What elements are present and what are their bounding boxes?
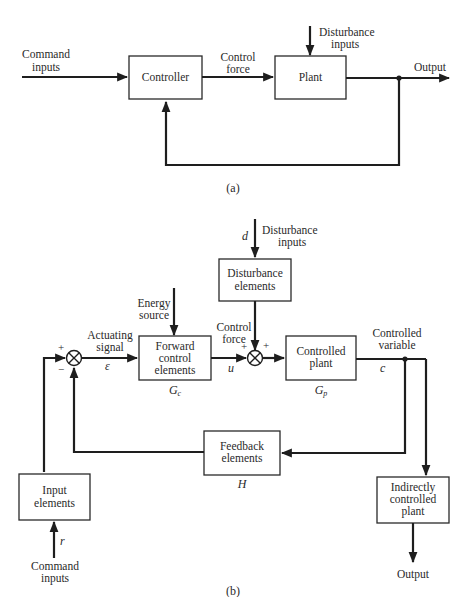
controlled-variable-label-2: variable <box>378 339 415 351</box>
gc-symbol: Gc <box>169 383 182 398</box>
controller-label: Controller <box>142 71 189 83</box>
sum2-left-plus-sign: + <box>241 340 247 352</box>
command-inputs-label: Command <box>22 48 70 60</box>
control-system-diagrams: Command inputs Controller Control force … <box>0 0 467 597</box>
input-elements-label: Input <box>42 484 67 497</box>
control-force-label: Control <box>220 51 255 63</box>
disturbance-inputs-label: Disturbance <box>262 224 318 236</box>
caption-b: (b) <box>226 584 240 597</box>
caption-a: (a) <box>226 181 239 195</box>
plant-label: Plant <box>299 71 323 83</box>
controlled-plant-label-2: plant <box>310 357 334 370</box>
controlled-variable-label: Controlled <box>372 327 421 339</box>
disturbance-elements-label: Disturbance <box>227 267 283 279</box>
control-force-label: Control <box>216 321 251 333</box>
diagram-b: d Disturbance inputs Disturbance element… <box>19 219 449 597</box>
error-symbol: ε <box>105 359 110 373</box>
command-inputs-label: Command <box>31 560 79 572</box>
summing-junction-2 <box>248 351 263 366</box>
forward-control-label-3: elements <box>155 364 196 376</box>
indirectly-controlled-plant-label-2: controlled <box>390 493 437 505</box>
indirectly-controlled-plant-label-3: plant <box>402 505 426 518</box>
r-symbol: r <box>60 534 65 548</box>
input-to-sum-path <box>44 358 65 472</box>
output-label: Output <box>397 568 430 581</box>
command-inputs-label-2: inputs <box>32 61 61 74</box>
disturbance-inputs-label-2: inputs <box>331 38 360 51</box>
c-symbol: c <box>380 361 386 375</box>
forward-control-label: Forward <box>156 340 195 352</box>
feedback-elements-label: Feedback <box>220 440 264 452</box>
gp-symbol: Gp <box>315 383 328 398</box>
u-symbol: u <box>228 361 234 375</box>
feedback-elements-label-2: elements <box>222 452 263 464</box>
controlled-plant-label: Controlled <box>296 345 345 357</box>
control-force-label-2: force <box>226 63 250 75</box>
diagram-a: Command inputs Controller Control force … <box>22 26 449 195</box>
sum2-right-plus-sign: + <box>263 339 269 351</box>
summing-junction-1 <box>67 351 82 366</box>
d-symbol: d <box>242 229 249 243</box>
h-symbol: H <box>237 477 248 491</box>
sum1-plus-sign: + <box>58 341 64 353</box>
command-inputs-label-2: inputs <box>41 572 70 585</box>
energy-source-label-2: source <box>139 309 169 321</box>
sum1-minus-sign: − <box>58 363 64 375</box>
actuating-signal-label-2: signal <box>96 341 123 354</box>
input-elements-label-2: elements <box>34 497 75 509</box>
disturbance-inputs-label: Disturbance <box>319 26 375 38</box>
disturbance-elements-label-2: elements <box>235 280 276 292</box>
disturbance-inputs-label-2: inputs <box>278 236 307 249</box>
output-label: Output <box>414 61 447 74</box>
forward-control-label-2: control <box>159 352 192 364</box>
